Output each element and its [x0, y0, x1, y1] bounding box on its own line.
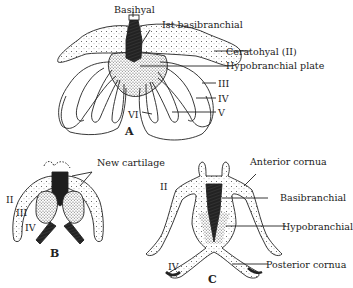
label-c-arch-ii: II — [160, 182, 168, 192]
label-b-arch-ii: II — [6, 195, 14, 205]
panel-label-c: C — [208, 274, 217, 285]
label-new-cartilage: New cartilage — [97, 158, 165, 168]
label-b-arch-iv: IV — [25, 223, 36, 233]
label-c-arch-iv: IV — [168, 262, 179, 272]
label-arch-iii: III — [218, 79, 229, 89]
label-arch-vi: VI — [128, 110, 139, 120]
label-arch-v: V — [218, 108, 225, 118]
panel-label-b: B — [50, 248, 59, 259]
label-posterior-cornua: Posterior cornua — [266, 260, 346, 270]
panel-label-a: A — [125, 126, 134, 137]
label-arch-iv: IV — [218, 94, 229, 104]
label-b-arch-iii: III — [16, 208, 27, 218]
label-basibranchial: Basibranchial — [280, 193, 346, 203]
label-hypobranchial: Hypobranchial — [282, 222, 353, 232]
label-hypobranchial-plate: Hypobranchial plate — [226, 61, 324, 71]
label-anterior-cornua: Anterior cornua — [250, 157, 327, 167]
label-basihyal: Basihyal — [114, 5, 155, 15]
panel-c-drawing — [146, 162, 286, 278]
label-ist-basibranchial: Ist basibranchial — [162, 20, 243, 30]
panel-a-drawing — [58, 12, 250, 140]
label-ceratohyal: Ceratohyal (II) — [226, 47, 297, 57]
